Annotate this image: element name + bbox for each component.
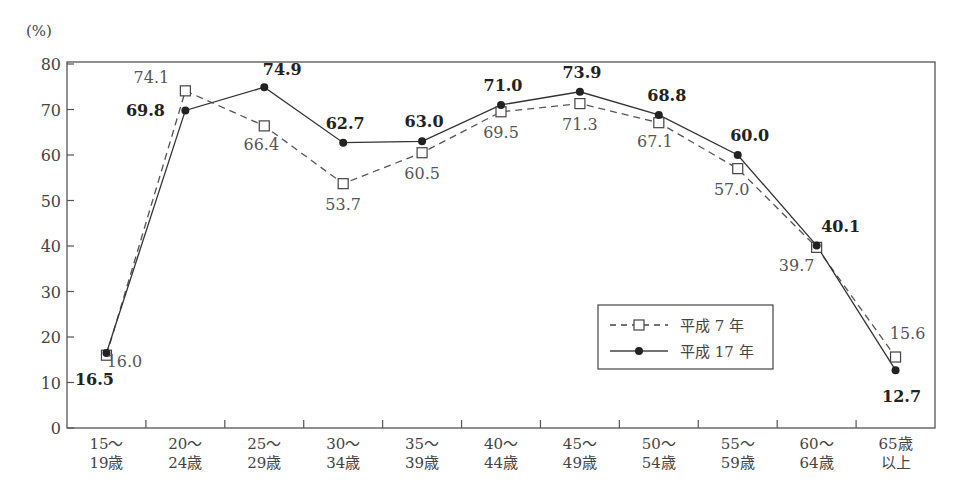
filled-circle-marker (497, 101, 505, 109)
x-tick-label: 25〜 (247, 435, 281, 453)
filled-circle-marker (576, 88, 584, 96)
data-label: 53.7 (325, 195, 361, 214)
x-tick-label: 49歳 (563, 454, 597, 472)
x-tick-label: 54歳 (642, 454, 676, 472)
x-tick-label: 59歳 (721, 454, 755, 472)
open-square-marker (259, 121, 269, 131)
y-tick-label: 0 (51, 419, 61, 438)
data-label: 39.7 (779, 256, 815, 275)
open-square-marker (891, 352, 901, 362)
data-label: 16.0 (107, 352, 143, 371)
data-label: 67.1 (637, 132, 673, 151)
legend-label: 平成 17 年 (680, 343, 754, 361)
line-chart: 0102030405060708015〜19歳20〜24歳25〜29歳30〜34… (0, 0, 967, 504)
filled-circle-marker (339, 139, 347, 147)
data-label: 69.5 (483, 123, 519, 142)
x-tick-label: 64歳 (800, 454, 834, 472)
y-tick-label: 10 (41, 374, 61, 393)
filled-circle-marker (892, 366, 900, 374)
open-square-marker (417, 148, 427, 158)
x-tick-label: 30〜 (326, 435, 360, 453)
data-label: 15.6 (890, 324, 926, 343)
filled-circle-marker (655, 111, 663, 119)
x-tick-label: 39歳 (405, 454, 439, 472)
filled-circle-marker (260, 83, 268, 91)
data-label: 73.9 (562, 63, 601, 82)
data-label: 16.5 (75, 370, 114, 389)
x-tick-label: 以上 (881, 454, 911, 472)
data-label: 62.7 (326, 114, 365, 133)
y-tick-label: 30 (41, 283, 61, 302)
legend-open-square-icon (634, 320, 644, 330)
x-tick-label: 65歳 (878, 435, 912, 453)
filled-circle-marker (418, 137, 426, 145)
legend-label: 平成 7 年 (680, 317, 744, 335)
y-tick-label: 80 (41, 55, 61, 74)
data-label: 40.1 (821, 217, 860, 236)
data-label: 60.0 (730, 126, 769, 145)
x-tick-label: 20〜 (168, 435, 202, 453)
data-label: 69.8 (126, 101, 165, 120)
y-tick-label: 70 (41, 101, 61, 120)
data-label: 71.0 (484, 76, 523, 95)
filled-circle-marker (181, 106, 189, 114)
data-label: 66.4 (243, 135, 279, 154)
x-tick-label: 15〜 (89, 435, 123, 453)
filled-circle-marker (734, 151, 742, 159)
x-tick-label: 34歳 (326, 454, 360, 472)
data-label: 74.9 (263, 60, 302, 79)
data-label: 57.0 (714, 180, 750, 199)
x-tick-label: 44歳 (484, 454, 518, 472)
y-tick-label: 20 (41, 328, 61, 347)
open-square-marker (180, 86, 190, 96)
x-tick-label: 19歳 (89, 454, 123, 472)
x-tick-label: 24歳 (168, 454, 202, 472)
y-tick-label: 40 (41, 237, 61, 256)
y-tick-label: 60 (41, 146, 61, 165)
data-label: 71.3 (562, 115, 598, 134)
data-label: 63.0 (405, 112, 444, 131)
x-tick-label: 29歳 (247, 454, 281, 472)
y-tick-label: 50 (41, 192, 61, 211)
open-square-marker (654, 118, 664, 128)
legend: 平成 7 年平成 17 年 (598, 305, 773, 369)
x-tick-label: 60〜 (800, 435, 834, 453)
data-label: 74.1 (134, 68, 170, 87)
data-label: 68.8 (647, 86, 686, 105)
filled-circle-marker (813, 242, 821, 250)
open-square-marker (338, 179, 348, 189)
x-tick-label: 50〜 (642, 435, 676, 453)
x-tick-label: 55〜 (721, 435, 755, 453)
data-label: 60.5 (404, 164, 440, 183)
x-tick-label: 45〜 (563, 435, 597, 453)
legend-filled-circle-icon (635, 347, 643, 355)
x-tick-label: 40〜 (484, 435, 518, 453)
data-label: 12.7 (882, 387, 921, 406)
open-square-marker (575, 99, 585, 109)
open-square-marker (733, 164, 743, 174)
x-tick-label: 35〜 (405, 435, 439, 453)
